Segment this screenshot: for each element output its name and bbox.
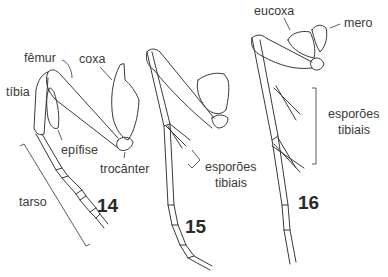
figure-number-16: 16 xyxy=(298,193,319,212)
label-esporoes-tibiais-15-line2: tibiais xyxy=(215,177,247,190)
label-coxa: coxa xyxy=(79,53,105,66)
label-eucoxa: eucoxa xyxy=(254,5,294,18)
label-femur: fêmur xyxy=(24,52,56,65)
figure-number-15: 15 xyxy=(185,217,206,236)
label-tibia: tíbia xyxy=(6,86,30,99)
label-esporoes-tibiais-15-line1: esporões xyxy=(205,161,256,174)
label-esporoes-tibiais-16-line1: esporões xyxy=(328,108,379,121)
label-mero: mero xyxy=(344,17,372,30)
label-epifise: epífise xyxy=(61,144,98,157)
label-esporoes-tibiais-16-line2: tibiais xyxy=(338,124,370,137)
label-tarso: tarso xyxy=(19,196,47,209)
label-trocanter: trocânter xyxy=(100,163,149,176)
figure-number-14: 14 xyxy=(97,196,118,215)
leg-16-drawing xyxy=(251,18,340,264)
